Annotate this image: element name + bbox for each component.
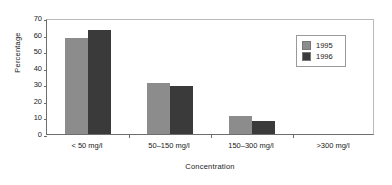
bar-group — [65, 20, 111, 134]
bar-chart: Percentage 010203040506070 < 50 mg/l50–1… — [0, 0, 392, 185]
y-tick-label: 0 — [20, 131, 42, 139]
x-tick-mark — [293, 134, 294, 138]
bar-1996-2 — [252, 121, 275, 134]
y-tick-label: 10 — [20, 114, 42, 122]
bar-1995-0 — [65, 38, 88, 134]
x-tick-mark — [211, 134, 212, 138]
legend-swatch-icon — [302, 52, 311, 61]
y-tick-label: 40 — [20, 65, 42, 73]
bar-group — [229, 20, 275, 134]
legend-label: 1995 — [316, 41, 333, 50]
y-tick-mark — [44, 37, 47, 38]
x-axis-title: Concentration — [46, 162, 374, 171]
y-tick-label: 20 — [20, 98, 42, 106]
legend-label: 1996 — [316, 52, 333, 61]
y-tick-label: 70 — [20, 15, 42, 23]
x-axis-tick-labels: < 50 mg/l50–150 mg/l150–300 mg/l>300 mg/… — [46, 141, 374, 155]
bar-1996-1 — [170, 86, 193, 134]
x-tick-mark — [129, 134, 130, 138]
bar-1995-1 — [147, 83, 170, 134]
y-tick-mark — [44, 86, 47, 87]
y-tick-label: 60 — [20, 32, 42, 40]
legend: 19951996 — [296, 35, 346, 67]
y-tick-mark — [44, 20, 47, 21]
y-tick-mark — [44, 70, 47, 71]
y-tick-label: 30 — [20, 81, 42, 89]
bar-1995-2 — [229, 116, 252, 134]
bar-group — [147, 20, 193, 134]
x-tick-label: >300 mg/l — [292, 141, 374, 151]
legend-item-1996[interactable]: 1996 — [302, 51, 340, 62]
y-tick-mark — [44, 103, 47, 104]
y-tick-mark — [44, 53, 47, 54]
legend-swatch-icon — [302, 41, 311, 50]
y-axis-tick-labels: 010203040506070 — [20, 16, 42, 136]
bar-1996-0 — [88, 30, 111, 134]
y-tick-mark — [44, 119, 47, 120]
x-tick-label: 50–150 mg/l — [128, 141, 210, 151]
y-tick-mark — [44, 136, 47, 137]
legend-item-1995[interactable]: 1995 — [302, 40, 340, 51]
x-tick-label: < 50 mg/l — [46, 141, 128, 151]
y-tick-label: 50 — [20, 48, 42, 56]
x-tick-label: 150–300 mg/l — [210, 141, 292, 151]
